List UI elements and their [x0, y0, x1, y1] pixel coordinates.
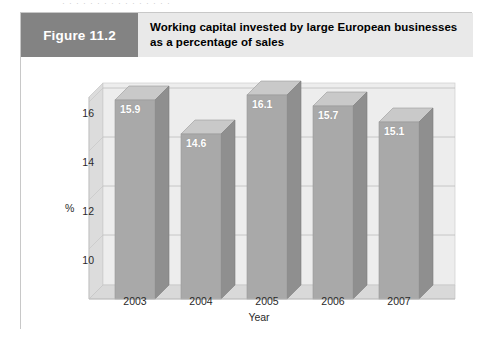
figure-card: Figure 11.2 Working capital invested by …	[20, 12, 472, 329]
x-tick-2007: 2007	[369, 295, 429, 307]
chart-3d-canvas	[21, 57, 473, 330]
figure-title: Working capital invested by large Europe…	[138, 13, 473, 57]
chart-bar-2005[interactable]	[247, 81, 301, 299]
figure-title-line-2: as a percentage of sales	[150, 35, 467, 50]
figure-number-badge: Figure 11.2	[21, 13, 138, 57]
bar-value-2004: 14.6	[186, 137, 206, 149]
bar-value-2007: 15.1	[384, 125, 404, 137]
x-tick-2005: 2005	[237, 295, 297, 307]
y-tick-16: 16	[68, 107, 94, 119]
figure-header: Figure 11.2 Working capital invested by …	[21, 13, 473, 57]
bar-value-2006: 15.7	[318, 109, 338, 121]
y-axis-title: %	[65, 202, 74, 214]
chart-plot-area: 16 14 12 10 % 2003 2004 2005 2006 2007 Y…	[21, 57, 473, 330]
page-bleed-text: · · · · · · · · · · · · · · · ·	[0, 0, 497, 11]
bar-value-2003: 15.9	[120, 103, 140, 115]
chart-svg	[21, 57, 473, 330]
x-tick-2004: 2004	[171, 295, 231, 307]
x-axis-title: Year	[21, 311, 473, 323]
chart-bar-2006[interactable]	[313, 92, 367, 299]
y-tick-14: 14	[68, 156, 94, 168]
y-tick-10: 10	[68, 254, 94, 266]
x-tick-2003: 2003	[105, 295, 165, 307]
x-tick-2006: 2006	[303, 295, 363, 307]
chart-bar-2003[interactable]	[115, 86, 169, 299]
bar-value-2005: 16.1	[252, 98, 272, 110]
figure-title-line-1: Working capital invested by large Europe…	[150, 20, 467, 35]
